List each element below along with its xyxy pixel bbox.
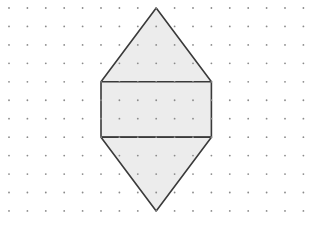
grid-dot — [192, 210, 194, 212]
grid-dot — [82, 44, 84, 46]
grid-dot — [8, 155, 10, 157]
grid-dot — [284, 7, 286, 9]
grid-dot — [45, 173, 47, 175]
grid-dot — [266, 26, 268, 28]
grid-dot — [119, 26, 121, 28]
grid-dot — [211, 99, 213, 101]
grid-dot — [137, 7, 139, 9]
grid-dot — [100, 62, 102, 64]
grid-dot — [247, 26, 249, 28]
grid-dot — [8, 210, 10, 212]
grid-dot — [27, 7, 29, 9]
grid-dot — [229, 192, 231, 194]
grid-dot — [174, 210, 176, 212]
grid-dot — [63, 26, 65, 28]
grid-dot — [155, 81, 157, 83]
grid-dot — [100, 26, 102, 28]
grid-dot — [155, 44, 157, 46]
grid-dot — [266, 99, 268, 101]
grid-dot — [119, 173, 121, 175]
grid-dot — [155, 173, 157, 175]
grid-dot — [155, 136, 157, 138]
grid-dot — [137, 155, 139, 157]
grid-dot — [192, 44, 194, 46]
grid-dot — [192, 192, 194, 194]
grid-dot — [174, 99, 176, 101]
grid-dot — [247, 192, 249, 194]
grid-dot — [174, 155, 176, 157]
grid-dot — [284, 99, 286, 101]
grid-dot — [82, 136, 84, 138]
grid-dot — [303, 210, 305, 212]
grid-dot — [192, 81, 194, 83]
grid-dot — [284, 136, 286, 138]
grid-dot — [82, 26, 84, 28]
grid-dot — [192, 173, 194, 175]
grid-dot — [137, 81, 139, 83]
grid-dot — [63, 173, 65, 175]
grid-dot — [100, 192, 102, 194]
grid-dot — [192, 155, 194, 157]
grid-dot — [247, 7, 249, 9]
grid-dot — [247, 62, 249, 64]
grid-dot — [266, 62, 268, 64]
grid-dot — [63, 155, 65, 157]
grid-dot — [63, 118, 65, 120]
grid-dot — [211, 118, 213, 120]
grid-dot — [229, 118, 231, 120]
grid-dot — [137, 192, 139, 194]
grid-dot — [229, 136, 231, 138]
grid-dot — [119, 155, 121, 157]
grid-dot — [155, 210, 157, 212]
grid-dot — [284, 62, 286, 64]
grid-dot — [27, 44, 29, 46]
grid-dot — [211, 62, 213, 64]
grid-dot — [45, 99, 47, 101]
grid-dot — [119, 62, 121, 64]
grid-dot — [82, 210, 84, 212]
grid-dot — [100, 7, 102, 9]
grid-dot — [27, 118, 29, 120]
grid-dot — [303, 118, 305, 120]
grid-dot — [8, 7, 10, 9]
grid-dot — [27, 81, 29, 83]
middle-rectangle — [101, 82, 211, 137]
grid-dot — [45, 44, 47, 46]
grid-dot — [284, 118, 286, 120]
grid-dot — [8, 173, 10, 175]
grid-dot — [229, 155, 231, 157]
grid-dot — [45, 7, 47, 9]
grid-dot — [155, 7, 157, 9]
grid-dot — [8, 81, 10, 83]
grid-dot — [266, 192, 268, 194]
grid-dot — [82, 99, 84, 101]
grid-dot — [45, 81, 47, 83]
grid-dot — [137, 62, 139, 64]
grid-dot — [82, 62, 84, 64]
grid-dot — [303, 173, 305, 175]
grid-dot — [211, 26, 213, 28]
grid-dot — [119, 136, 121, 138]
grid-dot — [192, 99, 194, 101]
grid-dot — [174, 192, 176, 194]
grid-dot — [155, 118, 157, 120]
grid-dot — [229, 44, 231, 46]
grid-dot — [82, 81, 84, 83]
grid-dot — [82, 173, 84, 175]
grid-dot — [82, 7, 84, 9]
grid-dot — [63, 210, 65, 212]
grid-dot — [284, 173, 286, 175]
grid-dot — [266, 118, 268, 120]
grid-dot — [266, 81, 268, 83]
grid-dot — [82, 155, 84, 157]
grid-dot — [8, 99, 10, 101]
grid-dot — [155, 62, 157, 64]
grid-dot — [266, 173, 268, 175]
grid-dot — [137, 210, 139, 212]
grid-dot — [174, 118, 176, 120]
grid-dot — [211, 136, 213, 138]
grid-dot — [266, 44, 268, 46]
grid-dot — [100, 155, 102, 157]
grid-dot — [155, 26, 157, 28]
grid-dot — [119, 99, 121, 101]
